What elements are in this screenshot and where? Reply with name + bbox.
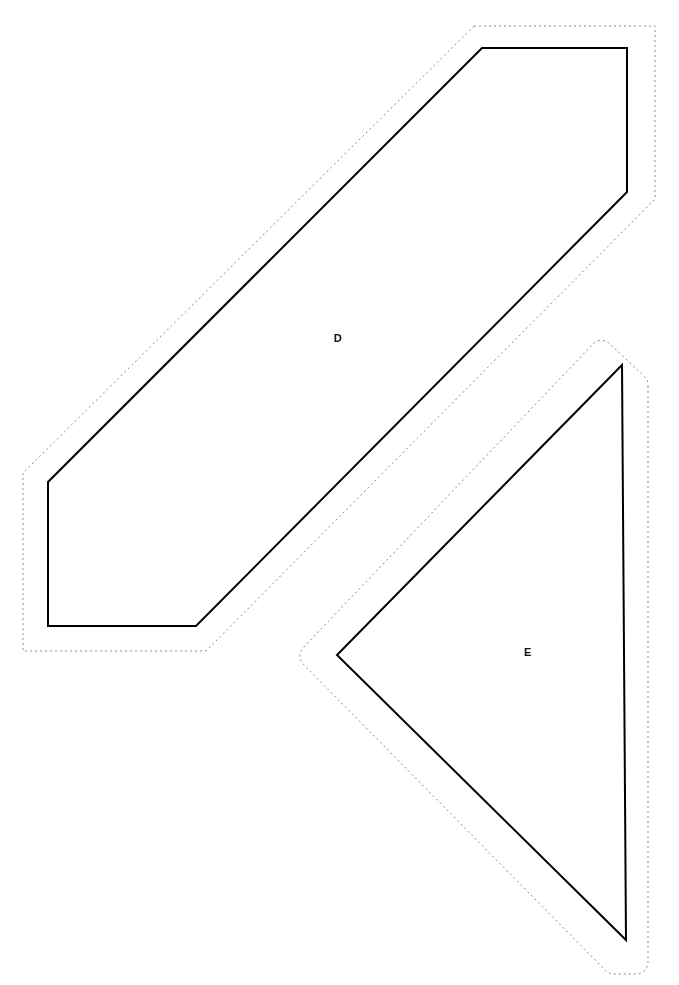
pattern-sheet: D E	[0, 0, 679, 985]
piece-e-label: E	[524, 646, 532, 658]
piece-d-label: D	[334, 332, 342, 344]
sheet-background	[0, 0, 679, 985]
pattern-drawing	[0, 0, 679, 985]
